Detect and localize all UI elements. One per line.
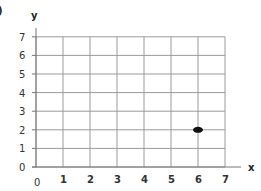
x-tick-label: 7 (222, 174, 229, 185)
y-axis-label: y (31, 10, 38, 21)
data-points (193, 127, 203, 133)
x-tick-label: 2 (87, 174, 94, 185)
grid-lines (36, 37, 225, 167)
x-tick-label: 3 (114, 174, 121, 185)
coordinate-grid-chart: ) 01234567 01234567 y x (0, 0, 261, 191)
x-tick-label: 6 (195, 174, 202, 185)
x-tick-label: 4 (141, 174, 148, 185)
y-tick-label: 7 (19, 32, 25, 43)
x-tick-label: 0 (34, 177, 40, 188)
y-tick-label: 1 (19, 143, 25, 154)
data-point (193, 127, 203, 133)
x-tick-label: 1 (60, 174, 67, 185)
x-tick-label: 5 (168, 174, 175, 185)
y-tick-label: 3 (19, 106, 25, 117)
y-tick-label: 6 (19, 50, 25, 61)
y-tick-label: 0 (19, 162, 25, 173)
x-axis-label: x (248, 162, 255, 173)
x-axis-ticks: 01234567 (34, 174, 229, 188)
y-axis-ticks: 01234567 (19, 32, 36, 173)
y-tick-label: 5 (19, 69, 25, 80)
y-tick-label: 4 (19, 88, 25, 99)
corner-label: ) (0, 5, 3, 16)
y-tick-label: 2 (19, 125, 25, 136)
